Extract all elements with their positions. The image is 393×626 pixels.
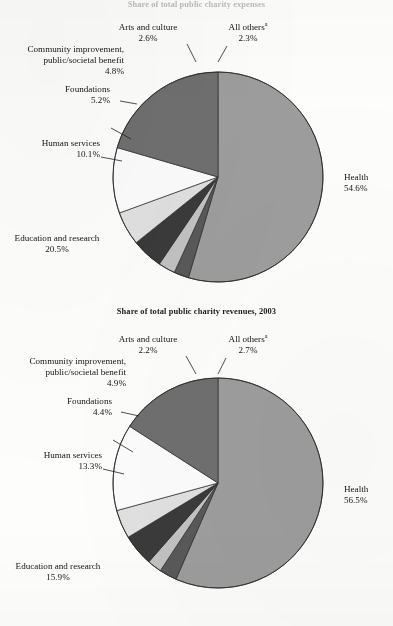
label-all-others-text: All others xyxy=(229,22,265,32)
label-all-others-footnote: a xyxy=(265,20,268,27)
label-all-others: All othersa 2.3% xyxy=(196,22,300,44)
leader-line-human-services xyxy=(103,469,124,474)
label-all-others-footnote: a xyxy=(265,332,268,339)
label-foundations-pct: 5.2% xyxy=(0,95,110,106)
label-education-and-research: Education and research 15.9% xyxy=(0,561,116,583)
label-arts-and-culture-text: Arts and culture xyxy=(119,22,178,32)
label-human-services: Human services 13.3% xyxy=(0,450,102,472)
label-health-text: Health xyxy=(344,484,368,494)
label-education-and-research-text: Education and research xyxy=(15,233,100,243)
label-health-pct: 56.5% xyxy=(344,495,393,506)
label-community-improvement-pct: 4.9% xyxy=(0,378,126,389)
label-health: Health 56.5% xyxy=(344,484,393,506)
label-foundations-text: Foundations xyxy=(65,84,110,94)
label-arts-and-culture-text: Arts and culture xyxy=(119,334,178,344)
leader-line-arts xyxy=(186,356,196,374)
label-education-and-research-pct: 20.5% xyxy=(0,244,114,255)
label-education-and-research-text: Education and research xyxy=(16,561,101,571)
label-all-others-text: All others xyxy=(229,334,265,344)
label-human-services-pct: 10.1% xyxy=(0,149,100,160)
leader-line-foundations xyxy=(111,128,131,139)
label-foundations-text: Foundations xyxy=(67,396,112,406)
chart-expenses: Share of total public charity expenses A… xyxy=(0,0,393,312)
label-human-services-pct: 13.3% xyxy=(0,461,102,472)
label-community-improvement-line2: public/societal benefit xyxy=(0,367,126,378)
label-education-and-research: Education and research 20.5% xyxy=(0,233,114,255)
label-education-and-research-pct: 15.9% xyxy=(0,572,116,583)
label-arts-and-culture-pct: 2.6% xyxy=(88,33,208,44)
label-human-services-text: Human services xyxy=(44,450,102,460)
label-foundations: Foundations 5.2% xyxy=(0,84,110,106)
label-health-pct: 54.6% xyxy=(344,183,393,194)
leader-line-all-others xyxy=(218,46,227,62)
label-human-services: Human services 10.1% xyxy=(0,138,100,160)
leader-line-human-services xyxy=(101,157,122,161)
label-health-text: Health xyxy=(344,172,368,182)
label-foundations: Foundations 4.4% xyxy=(0,396,112,418)
label-community-improvement: Community improvement, public/societal b… xyxy=(0,44,124,78)
leader-line-all-others xyxy=(218,358,226,374)
label-human-services-text: Human services xyxy=(42,138,100,148)
label-all-others: All othersa 2.7% xyxy=(196,334,300,356)
label-community-improvement-pct: 4.8% xyxy=(0,66,124,77)
leader-line-community xyxy=(120,101,137,104)
label-arts-and-culture-pct: 2.2% xyxy=(88,345,208,356)
label-arts-and-culture: Arts and culture 2.2% xyxy=(88,334,208,356)
label-all-others-pct: 2.7% xyxy=(196,345,300,356)
label-all-others-pct: 2.3% xyxy=(196,33,300,44)
label-foundations-pct: 4.4% xyxy=(0,407,112,418)
label-community-improvement-line2: public/societal benefit xyxy=(0,55,124,66)
leader-line-foundations xyxy=(113,440,133,452)
label-arts-and-culture: Arts and culture 2.6% xyxy=(88,22,208,44)
label-community-improvement-line1: Community improvement, xyxy=(30,356,127,366)
label-community-improvement: Community improvement, public/societal b… xyxy=(0,356,126,390)
chart-revenues: Arts and culture 2.2% All othersa 2.7% C… xyxy=(0,306,393,626)
leader-line-community xyxy=(121,412,139,416)
label-community-improvement-line1: Community improvement, xyxy=(28,44,125,54)
label-health: Health 54.6% xyxy=(344,172,393,194)
leader-line-arts xyxy=(187,44,196,62)
